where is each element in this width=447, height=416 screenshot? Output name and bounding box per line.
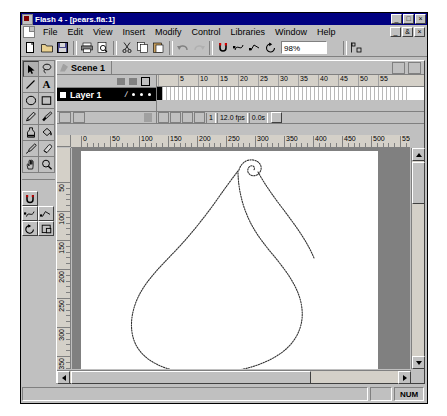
frame-cell[interactable]: [366, 87, 367, 100]
frame-cell[interactable]: [194, 87, 195, 100]
ink-bottle-tool[interactable]: [23, 125, 39, 141]
paint-bucket-tool[interactable]: [39, 125, 55, 141]
smooth-icon[interactable]: [231, 40, 246, 55]
frame-cell[interactable]: [362, 87, 363, 100]
rotate-icon[interactable]: [263, 40, 278, 55]
frame-cell[interactable]: [382, 87, 383, 100]
menu-item-file[interactable]: File: [38, 27, 63, 37]
center-frame-icon[interactable]: [271, 112, 282, 123]
rotate-icon[interactable]: [22, 221, 38, 236]
eye-icon[interactable]: [117, 78, 125, 85]
pear-outline-shape[interactable]: [81, 151, 378, 369]
close-button[interactable]: ×: [415, 14, 426, 24]
add-layer-icon[interactable]: [59, 112, 71, 123]
frame-cell[interactable]: [346, 87, 347, 100]
eraser-tool[interactable]: [39, 141, 55, 157]
scroll-down-button[interactable]: [412, 356, 425, 369]
frame-cell[interactable]: [278, 87, 279, 100]
edit-multiple-icon[interactable]: [182, 112, 193, 123]
frame-cell[interactable]: [330, 87, 331, 100]
frame-cell[interactable]: [342, 87, 343, 100]
menu-item-view[interactable]: View: [88, 27, 117, 37]
print-preview-icon[interactable]: [95, 40, 110, 55]
frame-cell[interactable]: [358, 87, 359, 100]
eyedropper-tool[interactable]: [23, 141, 39, 157]
hand-tool[interactable]: [23, 157, 39, 173]
frame-cell[interactable]: [182, 87, 183, 100]
new-icon[interactable]: [23, 40, 38, 55]
frame-cell[interactable]: [246, 87, 247, 100]
save-icon[interactable]: [55, 40, 70, 55]
lock-icon[interactable]: [129, 78, 137, 85]
frame-cell[interactable]: [242, 87, 243, 100]
scroll-up-button[interactable]: [412, 148, 425, 161]
line-tool[interactable]: [23, 77, 39, 93]
frame-cell[interactable]: [310, 87, 311, 100]
frame-cell[interactable]: [322, 87, 323, 100]
stage-canvas[interactable]: [81, 151, 378, 369]
frame-cell[interactable]: [230, 87, 231, 100]
frame-cell[interactable]: [222, 87, 223, 100]
frame-cell[interactable]: [390, 87, 391, 100]
menu-item-window[interactable]: Window: [270, 27, 312, 37]
menu-item-control[interactable]: Control: [186, 27, 225, 37]
frame-cell[interactable]: [302, 87, 303, 100]
text-tool[interactable]: A: [39, 77, 55, 93]
menu-item-help[interactable]: Help: [312, 27, 341, 37]
frame-cell[interactable]: [262, 87, 263, 100]
cut-icon[interactable]: [119, 40, 134, 55]
layer-row[interactable]: Layer 1 /: [57, 88, 156, 101]
frame-cell[interactable]: [250, 87, 251, 100]
onion-skin-icon[interactable]: [158, 112, 169, 123]
vertical-scrollbar[interactable]: [411, 148, 424, 369]
frame-cell[interactable]: [234, 87, 235, 100]
horizontal-scrollbar[interactable]: [57, 370, 411, 383]
frame-cell[interactable]: [378, 87, 379, 100]
arrow-tool[interactable]: [23, 61, 39, 77]
rectangle-tool[interactable]: [39, 93, 55, 109]
vertical-scroll-thumb[interactable]: [412, 162, 425, 204]
outline-icon[interactable]: [141, 77, 150, 86]
add-guide-icon[interactable]: [73, 112, 85, 123]
frame-cell[interactable]: [338, 87, 339, 100]
redo-icon[interactable]: [191, 40, 206, 55]
frame-cell[interactable]: [214, 87, 215, 100]
smooth-icon[interactable]: [22, 206, 38, 221]
menu-item-modify[interactable]: Modify: [150, 27, 187, 37]
timeline-ruler[interactable]: 510152025303540455055: [157, 75, 424, 87]
frame-cell[interactable]: [270, 87, 271, 100]
menu-item-libraries[interactable]: Libraries: [225, 27, 270, 37]
frame-cell[interactable]: [290, 87, 291, 100]
frame-cell[interactable]: [258, 87, 259, 100]
frame-cell[interactable]: [198, 87, 199, 100]
frame-cell[interactable]: [206, 87, 207, 100]
document-icon[interactable]: [23, 26, 35, 38]
copy-icon[interactable]: [135, 40, 150, 55]
frame-cell[interactable]: [294, 87, 295, 100]
frame-cell[interactable]: [282, 87, 283, 100]
frame-cell[interactable]: [334, 87, 335, 100]
frame-cell[interactable]: [174, 87, 175, 100]
frame-cell[interactable]: [218, 87, 219, 100]
scene-tab[interactable]: Scene 1: [57, 61, 112, 74]
frame-cell[interactable]: [406, 87, 407, 100]
frame-cell[interactable]: [286, 87, 287, 100]
zoom-input[interactable]: 98%: [281, 41, 327, 54]
scroll-right-button[interactable]: [398, 371, 411, 384]
frame-cell[interactable]: [190, 87, 191, 100]
oval-tool[interactable]: [23, 93, 39, 109]
straighten-icon[interactable]: [247, 40, 262, 55]
frame-cell[interactable]: [314, 87, 315, 100]
magnifier-tool[interactable]: [39, 157, 55, 173]
frame-cell[interactable]: [326, 87, 327, 100]
horizontal-scroll-thumb[interactable]: [71, 371, 311, 384]
frame-cell[interactable]: [318, 87, 319, 100]
frame-rate-indicator[interactable]: 12.0 fps: [217, 113, 248, 123]
frame-strip[interactable]: [157, 87, 424, 100]
undo-icon[interactable]: [175, 40, 190, 55]
frame-cell[interactable]: [402, 87, 403, 100]
frame-cell[interactable]: [398, 87, 399, 100]
menu-item-insert[interactable]: Insert: [117, 27, 150, 37]
mdi-restore-button[interactable]: &: [402, 27, 413, 37]
trash-icon[interactable]: [144, 113, 152, 122]
